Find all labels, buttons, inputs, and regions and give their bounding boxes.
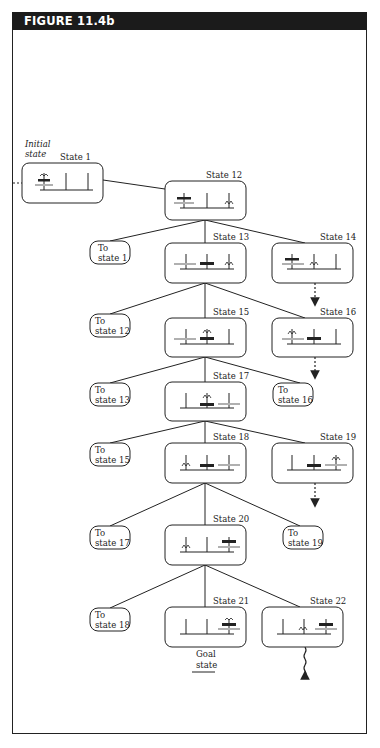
state-box-21: State 21 (165, 596, 249, 647)
goal-state-label: Goal (196, 649, 216, 659)
back-link-state-13: To state 13 (90, 383, 130, 406)
svg-text:State 1: State 1 (60, 152, 91, 162)
svg-text:state 19: state 19 (288, 538, 323, 548)
svg-text:state 13: state 13 (95, 395, 130, 405)
svg-text:state 18: state 18 (95, 620, 130, 630)
svg-text:state 15: state 15 (95, 455, 130, 465)
back-link-state-12: To state 12 (90, 314, 130, 337)
back-link-state-19: To state 19 (283, 526, 323, 549)
wavy-arrow-down-icon (304, 647, 306, 677)
initial-state-label: Initial (24, 139, 51, 149)
svg-text:To: To (95, 316, 105, 326)
state-box-12: State 12 (165, 170, 246, 220)
svg-text:State 12: State 12 (206, 170, 242, 180)
state-box-15: State 15 (165, 307, 249, 357)
svg-text:To: To (95, 385, 105, 395)
svg-text:To: To (95, 610, 105, 620)
goal-state-label-2: state (196, 660, 217, 670)
back-link-state-18: To state 18 (90, 608, 130, 631)
svg-text:To: To (95, 445, 105, 455)
state-space-tree: Initial state Goal state State 1 State 1… (0, 0, 380, 748)
svg-text:State 18: State 18 (213, 432, 249, 442)
state-box-13: State 13 (165, 232, 249, 283)
initial-state-label-2: state (25, 149, 46, 159)
svg-text:State 13: State 13 (213, 232, 249, 242)
svg-text:State 16: State 16 (320, 307, 356, 317)
state-box-14: State 14 (272, 232, 356, 283)
svg-text:State 20: State 20 (213, 514, 249, 524)
back-links: To state 1 To state 12 To state 13 To st… (90, 241, 323, 631)
back-link-state-17: To state 17 (90, 526, 130, 549)
back-link-state-16: To state 16 (273, 383, 313, 406)
state-box-16: State 16 (272, 307, 356, 357)
svg-text:State 22: State 22 (310, 596, 346, 606)
state-box-1: State 1 (22, 152, 103, 203)
svg-text:To: To (98, 243, 108, 253)
svg-text:state 17: state 17 (95, 538, 130, 548)
back-link-state-15: To state 15 (90, 443, 130, 466)
state-box-22: State 22 (262, 596, 346, 647)
svg-text:To: To (95, 528, 105, 538)
state-box-17: State 17 (165, 371, 249, 421)
svg-text:state 12: state 12 (95, 326, 130, 336)
back-link-state-1: To state 1 (90, 241, 130, 264)
state-box-18: State 18 (165, 432, 249, 483)
svg-text:State 21: State 21 (213, 596, 249, 606)
state-box-19: State 19 (272, 432, 356, 483)
svg-text:To: To (278, 385, 288, 395)
svg-text:To: To (288, 528, 298, 538)
tree-edges (13, 180, 305, 608)
svg-text:State 17: State 17 (213, 371, 249, 381)
svg-text:State 14: State 14 (320, 232, 356, 242)
svg-text:state 1: state 1 (98, 253, 127, 263)
state-box-20: State 20 (165, 514, 249, 565)
svg-text:State 15: State 15 (213, 307, 249, 317)
svg-text:state 16: state 16 (278, 395, 313, 405)
svg-text:State 19: State 19 (320, 432, 356, 442)
